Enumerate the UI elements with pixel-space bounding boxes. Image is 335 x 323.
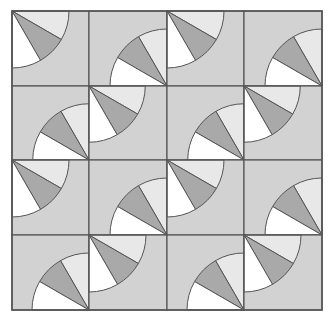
tile-B-r1c2 xyxy=(167,86,244,160)
tile-B-r0c3 xyxy=(244,11,322,86)
tile-B-r2c3 xyxy=(244,160,322,235)
tile-A-r2c0 xyxy=(12,160,89,235)
tile-A-r1c3 xyxy=(244,86,322,160)
quilt-pattern xyxy=(0,0,335,323)
tile-B-r2c1 xyxy=(89,160,167,235)
tile-B-r3c0 xyxy=(12,235,89,310)
tile-A-r2c2 xyxy=(167,160,244,235)
tile-B-r3c2 xyxy=(167,235,244,310)
tile-A-r3c3 xyxy=(244,235,322,310)
tile-A-r0c2 xyxy=(167,11,244,86)
tile-B-r1c0 xyxy=(12,86,89,160)
tile-A-r3c1 xyxy=(89,235,167,310)
tile-A-r1c1 xyxy=(89,86,167,160)
tile-A-r0c0 xyxy=(12,11,89,86)
tile-B-r0c1 xyxy=(89,11,167,86)
